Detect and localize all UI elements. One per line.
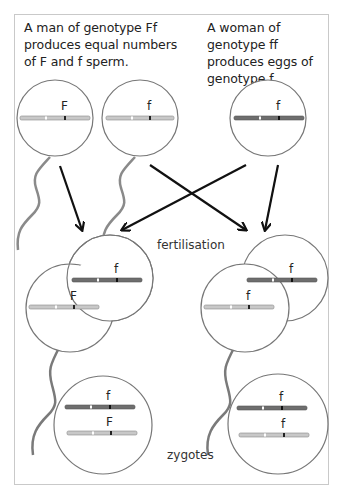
chromosome-light [20,116,90,120]
zygotes-label: zygotes [167,448,214,462]
fertilisation-arrows [60,165,278,230]
zygote-left: f F [54,376,152,474]
chromosome-dark [247,278,317,282]
sperm-F: F [17,80,93,250]
chromosome-dark [65,405,135,409]
chromosome-light [239,433,309,437]
arrow-icon [265,165,278,230]
sperm-tail-icon [18,157,50,250]
chromosome-dark [72,278,142,282]
chromosome-dark [237,406,307,410]
fertilisation-label: fertilisation [157,238,225,252]
allele-label: F [106,415,113,429]
chromosome-light [29,305,99,309]
sperm-f: f [102,80,178,252]
arrow-icon [122,165,246,230]
arrow-icon [150,165,246,230]
chromosome-dark [234,116,304,120]
allele-label: F [70,289,77,303]
allele-label: F [61,99,68,113]
chromosome-light [67,431,137,435]
zygote-right: f f [228,374,328,474]
arrow-icon [60,166,82,230]
egg-f: f [230,80,306,156]
chromosome-light [106,116,174,120]
chromosome-light [204,305,274,309]
